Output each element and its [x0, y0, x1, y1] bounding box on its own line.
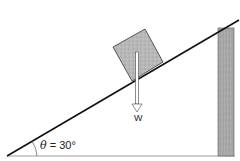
- angle-value: 30°: [59, 139, 76, 151]
- angle-equals: =: [47, 139, 60, 151]
- angle-arc: [32, 141, 37, 156]
- incline-diagram: [0, 0, 240, 161]
- support-post: [218, 28, 234, 156]
- theta-symbol: θ: [40, 139, 47, 152]
- incline-surface: [7, 20, 239, 156]
- angle-label: θ = 30°: [40, 140, 76, 151]
- weight-label: W: [134, 114, 143, 123]
